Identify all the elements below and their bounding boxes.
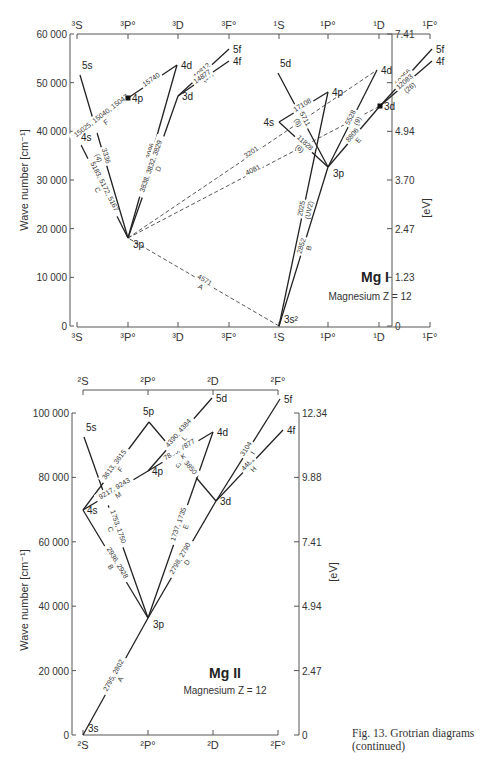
y-tick-label: 100 000 <box>33 408 70 419</box>
term-label-top: ¹D <box>373 19 385 31</box>
transition-label: 3104I <box>237 438 261 463</box>
term-label-top: ³F° <box>222 19 237 31</box>
y-tick-label: 20 000 <box>36 224 67 235</box>
y-tick-label: 40 000 <box>38 601 69 612</box>
term-label-bottom: ³F° <box>222 331 237 343</box>
level-label: 4f <box>287 425 296 436</box>
transition-label: 4571A <box>191 271 216 294</box>
term-label-bottom: ¹P° <box>320 331 335 343</box>
level-label: 3s <box>88 723 99 734</box>
level-marker <box>378 104 383 109</box>
transition-label: 3201 <box>241 143 262 161</box>
term-label-bottom: ²F° <box>271 739 286 751</box>
panel-mg-i: 010 00020 00030 00040 00050 00060 00001.… <box>18 19 445 343</box>
diagram-title: Mg II <box>209 665 241 681</box>
y-tick-label: 80 000 <box>38 472 69 483</box>
level-label: 4p <box>152 466 164 477</box>
ev-tick-label: 4.94 <box>302 601 322 612</box>
y-tick-label: 0 <box>61 321 67 332</box>
level-label: 5f <box>284 394 293 405</box>
term-label-top: ¹P° <box>320 19 335 31</box>
term-label-bottom: ¹S <box>274 331 285 343</box>
diagram-subtitle: Magnesium Z = 12 <box>183 685 267 696</box>
ev-tick-label: 12.34 <box>302 408 327 419</box>
level-label: 4d <box>381 65 392 76</box>
y-tick-label: 10 000 <box>36 272 67 283</box>
ev-tick-label: 2.47 <box>395 224 415 235</box>
level-label: 3p <box>333 168 345 179</box>
level-marker <box>126 96 131 101</box>
diagram-subtitle: Magnesium Z = 12 <box>328 291 412 302</box>
level-label: 3p <box>153 619 165 630</box>
level-label: 4s <box>87 505 98 516</box>
transition-label: 15740 <box>139 69 163 89</box>
ev-tick-label: 0 <box>302 730 308 741</box>
term-label-top: ²S <box>78 375 89 387</box>
panel-mg-ii: 020 00040 00060 00080 000100 00002.474.9… <box>18 375 339 751</box>
transition-label: 2795, 2802A <box>99 655 133 699</box>
transition-label: 11828(6) <box>288 132 316 160</box>
level-label: 3d <box>182 91 193 102</box>
y-tick-label: 60 000 <box>38 537 69 548</box>
y-tick-label: 50 000 <box>36 78 67 89</box>
level-label: 5f <box>233 44 242 55</box>
level-label: 5d <box>280 58 291 69</box>
level-label: 5s <box>86 422 97 433</box>
level-label: 3p <box>133 239 145 250</box>
level-label: 5p <box>143 406 155 417</box>
ev-tick-label: 1.23 <box>395 272 415 283</box>
ev-tick-label: 9.88 <box>302 472 322 483</box>
term-label-bottom: ³P° <box>120 331 135 343</box>
level-label: 5d <box>216 393 227 404</box>
level-label: 3d <box>384 101 395 112</box>
term-label-bottom: ¹D <box>373 331 385 343</box>
y-tick-label: 20 000 <box>38 666 69 677</box>
level-label: 4f <box>233 56 242 67</box>
term-label-top: ²D <box>207 375 219 387</box>
caption-line-1: Fig. 13. Grotrian diagrams <box>352 727 474 740</box>
term-label-top: ¹S <box>274 19 285 31</box>
y-tick-label: 30 000 <box>36 175 67 186</box>
term-label-top: ³S <box>72 19 83 31</box>
term-label-bottom: ²P° <box>140 739 155 751</box>
term-label-bottom: ³D <box>172 331 184 343</box>
level-label: 3d <box>220 496 231 507</box>
term-label-bottom: ¹F° <box>423 331 438 343</box>
term-label-bottom: ³S <box>72 331 83 343</box>
level-label: 5s <box>82 60 93 71</box>
term-label-bottom: ²S <box>78 739 89 751</box>
y-axis-title: Wave number [cm⁻¹] <box>18 549 30 651</box>
transition-label: 3838, 3832, 3829D <box>136 134 173 200</box>
level-label: 4f <box>436 56 445 67</box>
diagram-title: Mg I <box>361 269 389 285</box>
y-tick-label: 60 000 <box>36 29 67 40</box>
grotrian-diagrams: 010 00020 00030 00040 00050 00060 00001.… <box>0 0 496 772</box>
term-label-top: ³D <box>172 19 184 31</box>
figure-caption: Fig. 13. Grotrian diagrams (continued) <box>352 727 474 753</box>
ev-tick-label: 4.94 <box>395 126 415 137</box>
caption-line-2: (continued) <box>352 740 474 753</box>
y-axis-title: Wave number [cm⁻¹] <box>18 129 30 231</box>
y-tick-label: 0 <box>63 730 69 741</box>
level-label: 5f <box>436 44 445 55</box>
level-label: 4s <box>81 132 92 143</box>
y-tick-label: 40 000 <box>36 126 67 137</box>
term-label-top: ³P° <box>120 19 135 31</box>
level-label: 4d <box>217 427 228 438</box>
ev-axis-title: [eV] <box>327 562 339 582</box>
term-label-top: ²F° <box>271 375 286 387</box>
level-label: 4p <box>332 87 344 98</box>
ev-tick-label: 2.47 <box>302 666 322 677</box>
transition-label: 4081 <box>242 161 263 178</box>
ev-axis-title: [eV] <box>420 198 432 218</box>
ev-tick-label: 7.41 <box>302 537 322 548</box>
term-label-top: ¹F° <box>423 19 438 31</box>
term-label-bottom: ²D <box>207 739 219 751</box>
level-label: 4p <box>132 93 144 104</box>
ev-tick-label: 3.70 <box>395 175 415 186</box>
level-label: 4s <box>263 117 274 128</box>
level-label: 3s² <box>284 314 299 325</box>
term-label-top: ²P° <box>140 375 155 387</box>
level-label: 4d <box>181 60 192 71</box>
transition-label: 1753, 1750C <box>101 505 130 550</box>
